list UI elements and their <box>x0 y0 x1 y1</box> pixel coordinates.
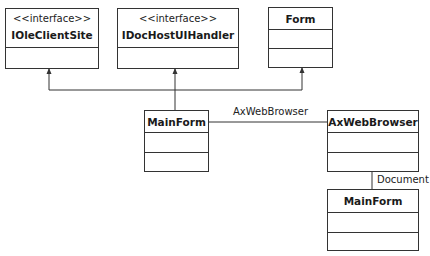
class-mainform[interactable]: MainForm <box>144 110 209 172</box>
attributes-section <box>6 48 98 68</box>
attributes-section <box>328 213 418 233</box>
class-name: Form <box>285 12 315 26</box>
association-label-axwebbrowser: AxWebBrowser <box>233 106 308 117</box>
class-header: <<interface>> IOleClientSite <box>6 9 98 48</box>
operations-section <box>269 49 332 67</box>
stereotype-label: <<interface>> <box>6 9 98 25</box>
class-idochostuihandler[interactable]: <<interface>> IDocHostUIHandler <box>117 8 239 69</box>
class-name: AxWebBrowser <box>328 115 417 129</box>
class-name: MainForm <box>147 115 206 129</box>
association-label-document: Document <box>377 174 429 185</box>
class-mainform-document[interactable]: MainForm <box>327 189 419 251</box>
operations-section <box>328 153 418 171</box>
attributes-section <box>118 48 238 68</box>
stereotype-label: <<interface>> <box>118 9 238 25</box>
attributes-section <box>328 133 418 153</box>
operations-section <box>328 233 418 250</box>
attributes-section <box>269 30 332 49</box>
class-header: Form <box>269 8 332 30</box>
class-header: MainForm <box>328 190 418 213</box>
class-axwebbrowser[interactable]: AxWebBrowser <box>327 110 419 172</box>
attributes-section <box>145 133 208 153</box>
class-header: <<interface>> IDocHostUIHandler <box>118 9 238 48</box>
class-name: IOleClientSite <box>6 25 98 42</box>
class-header: AxWebBrowser <box>328 111 418 133</box>
operations-section <box>145 153 208 171</box>
class-form[interactable]: Form <box>268 7 333 68</box>
class-header: MainForm <box>145 111 208 133</box>
class-name: IDocHostUIHandler <box>118 25 238 42</box>
class-ioleclientsite[interactable]: <<interface>> IOleClientSite <box>5 8 99 69</box>
class-name: MainForm <box>344 194 403 208</box>
